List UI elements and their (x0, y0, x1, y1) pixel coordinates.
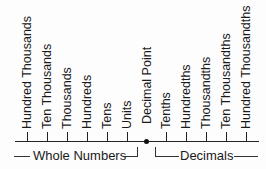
tick (226, 132, 227, 141)
tick (127, 132, 128, 141)
label-thousands: Thousands (61, 67, 74, 129)
label-hundred-thousands: Hundred Thousands (21, 16, 34, 129)
label-decimal-point: Decimal Point (141, 47, 154, 124)
label-hundreds: Hundreds (81, 75, 94, 129)
whole-bracket-right-line (124, 156, 138, 157)
tick (206, 132, 207, 141)
tick (67, 132, 68, 141)
tick (27, 132, 28, 141)
label-thousandths: Thousandths (200, 57, 213, 129)
tick (166, 132, 167, 141)
label-units: Units (121, 101, 134, 129)
tick (186, 132, 187, 141)
whole-numbers-label: Whole Numbers (33, 148, 126, 163)
tick (47, 132, 48, 141)
label-ten-thousands: Ten Thousands (41, 44, 54, 129)
number-line (15, 141, 259, 142)
decimal-point-dot (144, 139, 149, 144)
label-ten-thousandths: Ten Thousandths (220, 33, 233, 129)
label-hundredths: Hundredths (180, 64, 193, 129)
label-tens: Tens (101, 103, 114, 129)
label-hundred-thousandths: Hundred Thousandths (240, 6, 253, 129)
decimal-bracket-left-line (155, 156, 179, 157)
label-tenths: Tenths (160, 92, 173, 129)
whole-bracket-end (137, 147, 138, 157)
tick (107, 132, 108, 141)
decimal-bracket-right-line (234, 156, 258, 157)
tick (246, 132, 247, 141)
whole-bracket-left-line (14, 156, 30, 157)
tick (87, 132, 88, 141)
decimals-label: Decimals (180, 148, 233, 163)
